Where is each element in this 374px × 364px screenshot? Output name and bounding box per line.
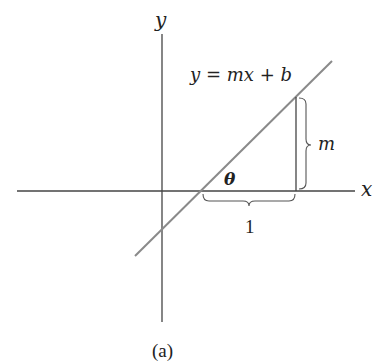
run-brace bbox=[203, 194, 295, 206]
slope-line bbox=[135, 61, 332, 256]
equation-label: y = mx + b bbox=[189, 64, 292, 85]
slope-diagram: y x y = mx + b θ m 1 (a) bbox=[0, 0, 374, 364]
angle-label: θ bbox=[224, 169, 236, 189]
run-label: 1 bbox=[245, 216, 255, 237]
rise-brace bbox=[299, 98, 311, 189]
y-axis-label: y bbox=[154, 8, 167, 32]
rise-label: m bbox=[318, 133, 335, 154]
figure-caption: (a) bbox=[152, 340, 173, 362]
x-axis-label: x bbox=[361, 177, 372, 201]
